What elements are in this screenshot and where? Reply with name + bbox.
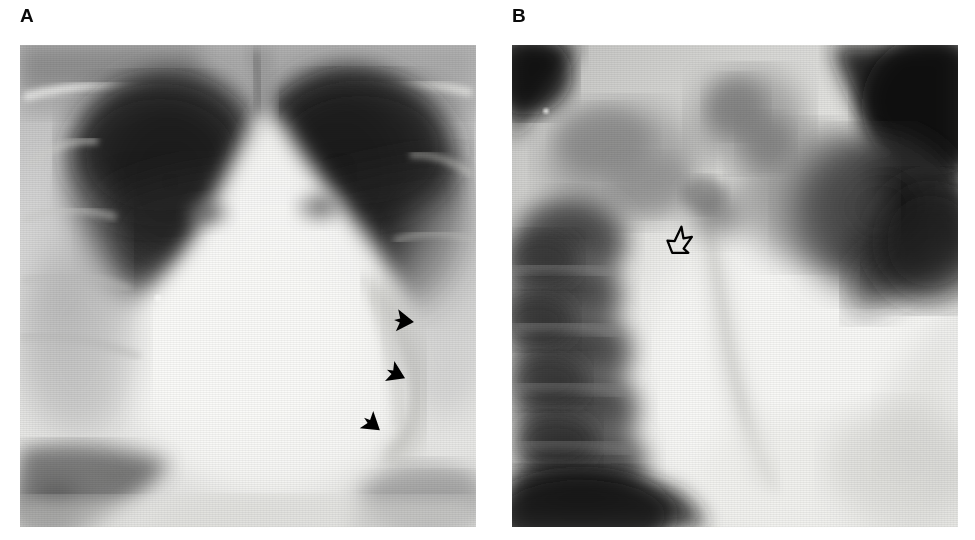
panel-b-radiograph bbox=[512, 45, 958, 527]
panel-b-image bbox=[512, 45, 958, 527]
radiograph-figure: A bbox=[0, 0, 975, 540]
panel-a-radiograph bbox=[20, 45, 476, 527]
panel-label-b: B bbox=[512, 6, 526, 25]
panel-a-image bbox=[20, 45, 476, 527]
panel-label-a: A bbox=[20, 6, 34, 25]
